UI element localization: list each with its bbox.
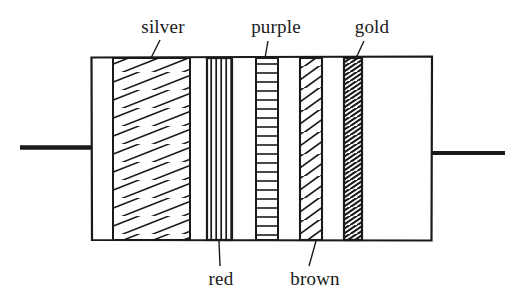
- leader-red: [219, 241, 220, 266]
- leader-purple: [265, 41, 268, 58]
- label-red: red: [209, 268, 234, 289]
- leader-gold: [356, 41, 364, 58]
- band-purple: [256, 58, 278, 240]
- band-red-fill: [207, 58, 232, 240]
- resistor-color-band-figure: silver red purple brown gold: [0, 0, 519, 296]
- leader-silver: [151, 40, 160, 58]
- label-brown: brown: [290, 268, 340, 289]
- label-gold: gold: [355, 16, 390, 37]
- resistor-drawing: silver red purple brown gold: [0, 0, 519, 296]
- band-brown-fill: [300, 58, 322, 240]
- leader-brown: [309, 241, 316, 266]
- band-red: [207, 58, 232, 240]
- band-brown: [300, 58, 322, 240]
- label-silver: silver: [141, 16, 185, 37]
- band-silver: [113, 58, 190, 240]
- band-purple-fill: [256, 58, 278, 240]
- band-silver-fill: [113, 58, 190, 240]
- band-gold-fill: [344, 58, 362, 240]
- label-purple: purple: [251, 16, 301, 37]
- band-gold: [344, 58, 362, 240]
